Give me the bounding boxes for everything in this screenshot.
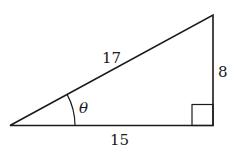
right-angle-marker [192,105,213,126]
triangle [10,15,213,126]
hypotenuse-label: 17 [102,49,121,67]
angle-label: θ [79,99,88,117]
angle-arc [67,95,75,126]
opposite-label: 8 [218,63,228,81]
adjacent-label: 15 [110,131,129,149]
triangle-diagram: 17 8 θ 15 [0,0,241,154]
